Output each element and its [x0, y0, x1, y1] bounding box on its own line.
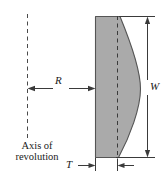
radius-arrow-right-icon — [88, 86, 96, 91]
thickness-arrow-right-icon — [118, 163, 125, 168]
revolution-solid-diagram: R W T Axis of revolution — [0, 0, 163, 178]
width-arrow-bottom-icon — [145, 150, 150, 158]
radius-label: R — [55, 75, 62, 87]
radius-arrow-left-icon — [28, 86, 36, 91]
axis-of-revolution-label: Axis of revolution — [2, 140, 72, 162]
width-arrow-top-icon — [145, 17, 150, 25]
width-label: W — [150, 81, 159, 93]
axis-label-line-1: Axis of — [2, 140, 72, 151]
thickness-arrow-left-icon — [89, 163, 96, 168]
thickness-dimension — [78, 158, 134, 171]
axis-label-line-2: revolution — [2, 151, 72, 162]
